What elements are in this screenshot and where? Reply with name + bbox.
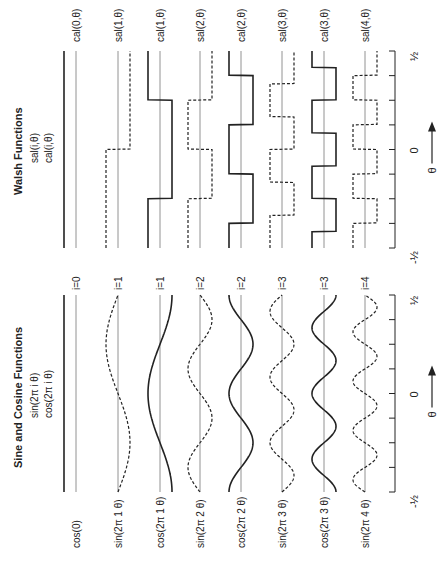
theta-label: θ xyxy=(426,411,438,417)
function-row: cos(2π 3 θ) xyxy=(312,295,336,548)
sine-cosine-panel: cos(0)sin(2π 1 θ)cos(2π 1 θ)sin(2π 2 θ)c… xyxy=(12,295,438,548)
arrow-up-icon xyxy=(428,122,436,132)
function-row: cal(3,θ)i=3 xyxy=(312,9,336,290)
function-row: cos(2π 1 θ) xyxy=(148,295,172,548)
function-label: cal(3,θ) xyxy=(319,9,330,42)
axis-max-label: ½ xyxy=(408,52,420,61)
axis-min-label: -½ xyxy=(408,251,420,264)
theta-axis: ½0-½θ xyxy=(389,295,438,508)
index-label: i=1 xyxy=(113,276,124,290)
function-label: cal(1,θ) xyxy=(155,9,166,42)
function-label: sin(2π 3 θ) xyxy=(277,499,288,548)
walsh-functions-panel: cal(0,θ)i=0sal(1,θ)i=1cal(1,θ)i=1sal(2,θ… xyxy=(12,9,438,290)
function-label: cal(2,θ) xyxy=(236,9,247,42)
function-row: cos(2π 2 θ) xyxy=(229,295,253,548)
function-label: sal(4,θ) xyxy=(360,9,371,42)
function-label: sal(2,θ) xyxy=(195,9,206,42)
axis-zero-label: 0 xyxy=(408,391,420,397)
function-label: cos(2π 3 θ) xyxy=(319,497,330,548)
function-label: cos(0) xyxy=(71,520,82,548)
function-row: cal(0,θ)i=0 xyxy=(64,9,82,290)
axis-min-label: -½ xyxy=(408,495,420,508)
function-row: cal(1,θ)i=1 xyxy=(148,9,172,290)
theta-axis: ½0-½θ xyxy=(389,51,438,264)
function-label: cos(2π 2 θ) xyxy=(236,497,247,548)
function-row: cal(2,θ)i=2 xyxy=(229,9,253,290)
index-label: i=0 xyxy=(71,276,82,290)
index-label: i=1 xyxy=(155,276,166,290)
function-label: sin(2π 4 θ) xyxy=(360,499,371,548)
function-row: sin(2π 1 θ) xyxy=(106,295,130,548)
walsh-vs-sine-figure: cal(0,θ)i=0sal(1,θ)i=1cal(1,θ)i=1sal(2,θ… xyxy=(0,0,446,563)
index-label: i=2 xyxy=(236,276,247,290)
function-row: sin(2π 4 θ) xyxy=(353,295,377,548)
index-label: i=2 xyxy=(195,276,206,290)
sine-subtitle-cos: cos(2π i θ) xyxy=(43,370,54,418)
function-label: cos(2π 1 θ) xyxy=(155,497,166,548)
axis-zero-label: 0 xyxy=(408,147,420,153)
index-label: i=3 xyxy=(277,276,288,290)
function-row: cos(0) xyxy=(64,295,82,548)
sine-title: Sine and Cosine Functions xyxy=(12,327,24,468)
function-label: sin(2π 2 θ) xyxy=(195,499,206,548)
index-label: i=4 xyxy=(360,276,371,290)
function-row: sal(3,θ)i=3 xyxy=(270,9,294,290)
function-label: sin(2π 1 θ) xyxy=(113,499,124,548)
function-label: sal(1,θ) xyxy=(113,9,124,42)
arrow-up-icon xyxy=(428,366,436,376)
function-row: sal(4,θ)i=4 xyxy=(353,9,377,290)
function-label: sal(3,θ) xyxy=(277,9,288,42)
walsh-title: Walsh Functions xyxy=(12,107,24,195)
index-label: i=3 xyxy=(319,276,330,290)
axis-max-label: ½ xyxy=(408,296,420,305)
function-row: sal(2,θ)i=2 xyxy=(188,9,212,290)
function-row: sin(2π 3 θ) xyxy=(270,295,294,548)
function-row: sin(2π 2 θ) xyxy=(188,295,212,548)
theta-label: θ xyxy=(426,167,438,173)
function-row: sal(1,θ)i=1 xyxy=(106,9,130,290)
sine-subtitle-sin: sin(2π i θ) xyxy=(29,373,40,418)
walsh-subtitle-sal: sal(i,θ) xyxy=(29,133,40,163)
function-label: cal(0,θ) xyxy=(71,9,82,42)
walsh-subtitle-cal: cal(i,θ) xyxy=(43,133,54,163)
